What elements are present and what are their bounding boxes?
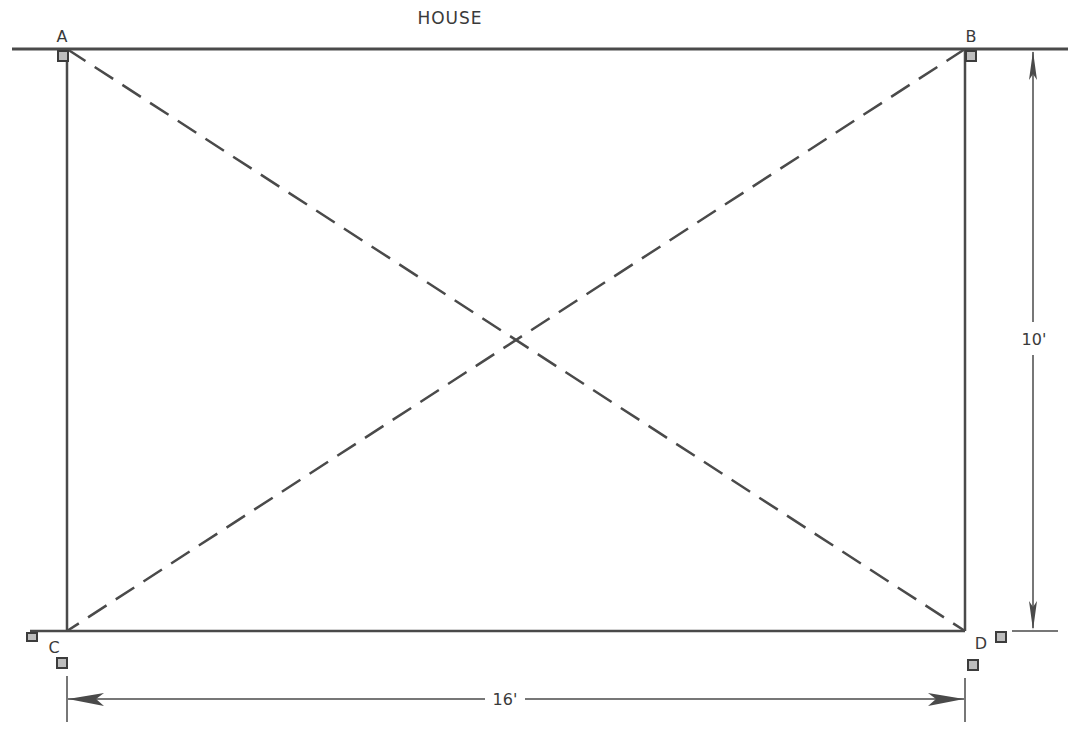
corner-label-c: C xyxy=(48,638,59,657)
stake-c-left xyxy=(27,633,37,641)
stake-c-bottom xyxy=(57,658,67,668)
house-label: HOUSE xyxy=(417,8,482,28)
stake-d-bottom xyxy=(968,660,978,670)
corner-label-b: B xyxy=(966,27,977,46)
corner-label-d: D xyxy=(975,634,987,653)
stake-b xyxy=(966,51,976,61)
width-dimension-label: 16' xyxy=(493,690,518,709)
stake-d-right xyxy=(996,632,1006,642)
height-dimension-label: 10' xyxy=(1022,330,1047,349)
layout-diagram: HOUSE A B C D 10' 16' xyxy=(0,0,1073,733)
corner-label-a: A xyxy=(57,27,68,46)
diagram-canvas: HOUSE A B C D 10' 16' xyxy=(0,0,1073,733)
stake-a xyxy=(58,51,68,61)
